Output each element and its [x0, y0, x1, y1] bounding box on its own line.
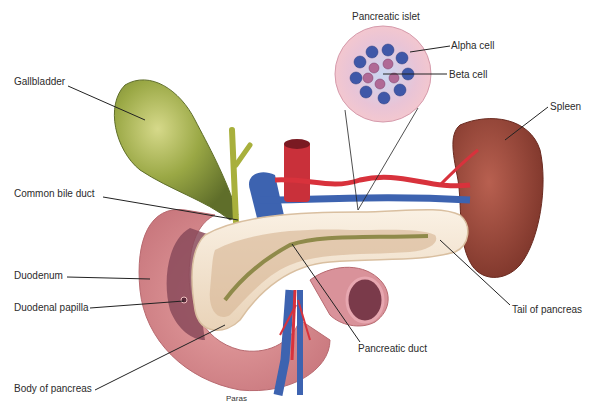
label-body-of-pancreas: Body of pancreas	[14, 383, 92, 395]
label-alpha-cell: Alpha cell	[451, 40, 494, 52]
label-pancreatic-islet: Pancreatic islet	[352, 11, 420, 23]
label-spleen: Spleen	[550, 101, 581, 113]
label-common-bile-duct: Common bile duct	[14, 188, 95, 200]
bile-duct-shape	[232, 130, 236, 222]
label-tail-of-pancreas: Tail of pancreas	[512, 304, 582, 316]
artist-credit: Paras	[226, 393, 247, 405]
pancreas-diagram: Gallbladder Common bile duct Duodenum Du…	[0, 0, 599, 414]
label-beta-cell: Beta cell	[449, 69, 487, 81]
label-gallbladder: Gallbladder	[14, 76, 65, 88]
anatomy-illustration	[0, 0, 599, 414]
label-duodenal-papilla: Duodenal papilla	[14, 302, 89, 314]
label-duodenum: Duodenum	[14, 270, 63, 282]
jejunum-shape	[310, 267, 388, 326]
label-pancreatic-duct: Pancreatic duct	[358, 343, 427, 355]
gallbladder-shape	[114, 80, 238, 220]
